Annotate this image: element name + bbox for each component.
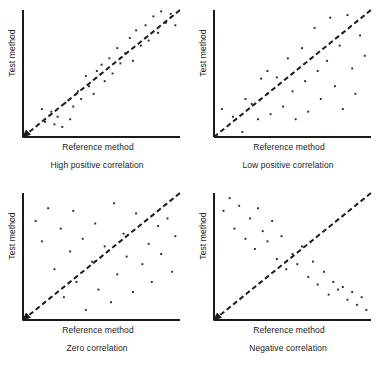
y-axis-label-zero: Test method — [7, 196, 17, 276]
panel-zero-correlation: Test method Reference method Zero correl… — [0, 183, 190, 366]
scatter-plot-low-positive — [191, 0, 381, 183]
caption-zero: Zero correlation — [8, 343, 186, 353]
plot-area-negative: Test method Reference method — [191, 183, 381, 366]
scatter-plot-negative — [191, 183, 381, 366]
scatter-plot-zero — [0, 183, 190, 366]
plot-area-low-positive: Test method Reference method — [191, 0, 381, 183]
panel-low-positive-correlation: Test method Reference method Low positiv… — [191, 0, 381, 183]
y-axis-label-negative: Test method — [198, 196, 208, 276]
x-axis-label-zero: Reference method — [18, 325, 178, 335]
y-axis-label-high-positive: Test method — [7, 13, 17, 93]
x-axis-label-high-positive: Reference method — [18, 142, 178, 152]
caption-negative: Negative correlation — [199, 343, 377, 353]
x-axis-label-low-positive: Reference method — [209, 142, 369, 152]
y-axis-label-low-positive: Test method — [198, 13, 208, 93]
x-axis-label-negative: Reference method — [209, 325, 369, 335]
panel-negative-correlation: Test method Reference method Negative co… — [191, 183, 381, 366]
caption-high-positive: High positive correlation — [8, 160, 186, 170]
plot-area-high-positive: Test method Reference method — [0, 0, 190, 183]
panel-high-positive-correlation: Test method Reference method High positi… — [0, 0, 190, 183]
correlation-figure: Test method Reference method High positi… — [0, 0, 381, 367]
caption-low-positive: Low positive correlation — [199, 160, 377, 170]
scatter-plot-high-positive — [0, 0, 190, 183]
plot-area-zero: Test method Reference method — [0, 183, 190, 366]
